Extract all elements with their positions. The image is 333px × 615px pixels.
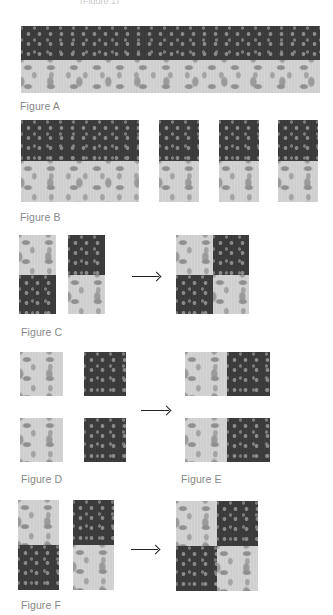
pair-1-top-light: [18, 500, 59, 545]
unit-1-light: [185, 352, 227, 396]
square-light-1: [20, 352, 63, 396]
cut-off-heading: (Figure 1): [80, 0, 119, 4]
segment-2-light: [219, 161, 259, 202]
square-dark-2: [84, 418, 126, 462]
strip-set-dark: [21, 120, 139, 161]
figure-label: Figure E: [181, 473, 221, 485]
segment-3-light: [278, 161, 318, 202]
strip-set-light: [21, 161, 139, 202]
pair-2-top-dark: [68, 235, 105, 275]
result-bottom-left-dark: [176, 546, 217, 591]
figure-label: Figure C: [21, 326, 62, 338]
figure-label: Figure D: [21, 473, 62, 485]
result-bottom-right-light: [213, 275, 249, 314]
light-strip: [21, 60, 320, 93]
pair-2-bottom-light: [73, 545, 114, 590]
square-light-2: [20, 418, 63, 462]
pair-1-top-light: [19, 235, 56, 275]
unit-2-light: [185, 418, 227, 462]
right-arrow-icon: [131, 549, 158, 550]
pair-2-bottom-light: [68, 275, 105, 314]
figure-label: Figure F: [21, 599, 61, 611]
unit-1-dark: [227, 352, 270, 396]
right-arrow-icon: [141, 410, 169, 411]
result-top-right-dark: [213, 235, 249, 275]
dark-strip: [21, 26, 320, 60]
result-top-right-dark: [217, 501, 258, 546]
square-dark-1: [84, 352, 126, 396]
result-bottom-right-light: [217, 546, 258, 591]
segment-3-dark: [278, 120, 318, 161]
result-top-left-light: [176, 235, 213, 275]
pair-1-bottom-dark: [18, 545, 59, 590]
unit-2-dark: [227, 418, 270, 462]
result-bottom-left-dark: [176, 275, 213, 314]
figure-label: Figure A: [20, 100, 60, 112]
segment-2-dark: [219, 120, 259, 161]
right-arrow-icon: [132, 276, 159, 277]
pair-1-bottom-dark: [19, 275, 56, 314]
pair-2-top-dark: [73, 500, 114, 545]
result-top-left-light: [176, 501, 217, 546]
segment-1-dark: [159, 120, 199, 161]
segment-1-light: [159, 161, 199, 202]
figure-label: Figure B: [20, 211, 60, 223]
